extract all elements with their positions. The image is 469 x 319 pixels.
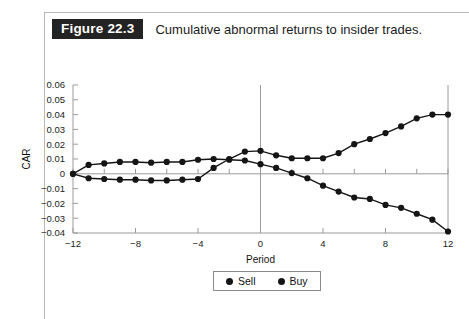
data-point-sell xyxy=(164,159,170,165)
y-tick-label: 0 xyxy=(60,168,65,179)
x-axis-tick-labels: −12−8−404812 xyxy=(65,238,453,249)
data-point-sell xyxy=(429,217,435,223)
y-tick-label: −0.03 xyxy=(41,213,65,224)
data-point-buy xyxy=(211,165,217,171)
data-point-sell xyxy=(117,159,123,165)
page-border-top xyxy=(44,12,469,13)
data-point-sell xyxy=(414,211,420,217)
data-point-buy xyxy=(320,155,326,161)
legend-item-buy[interactable]: Buy xyxy=(278,275,308,287)
x-tick-label: 4 xyxy=(320,238,325,249)
data-point-buy xyxy=(367,136,373,142)
data-point-sell xyxy=(86,162,92,168)
data-point-buy xyxy=(398,123,404,129)
legend-label: Buy xyxy=(290,275,308,287)
data-point-buy xyxy=(117,177,123,183)
x-tick-label: 8 xyxy=(383,238,388,249)
data-point-sell xyxy=(148,160,154,166)
data-point-sell xyxy=(320,183,326,189)
data-point-sell xyxy=(398,205,404,211)
data-point-sell xyxy=(242,157,248,163)
y-tick-label: 0.05 xyxy=(47,94,66,105)
data-point-sell xyxy=(304,175,310,181)
data-point-buy xyxy=(382,130,388,136)
data-point-sell xyxy=(195,157,201,163)
data-point-buy xyxy=(429,112,435,118)
chart-legend: Sell Buy xyxy=(213,271,321,291)
figure-caption-text: Cumulative abnormal returns to insider t… xyxy=(155,22,422,37)
data-point-buy xyxy=(414,115,420,121)
data-point-sell xyxy=(273,165,279,171)
data-point-buy xyxy=(289,155,295,161)
data-point-buy xyxy=(70,171,76,177)
data-point-buy xyxy=(351,141,357,147)
figure-caption-row: Figure 22.3 Cumulative abnormal returns … xyxy=(52,18,422,40)
data-point-sell xyxy=(101,160,107,166)
y-tick-label: 0.06 xyxy=(47,79,66,90)
x-axis-title: Period xyxy=(246,254,275,265)
data-point-buy xyxy=(445,112,451,118)
y-axis-title: CAR xyxy=(21,148,32,169)
data-point-buy xyxy=(132,177,138,183)
y-tick-label: −0.01 xyxy=(41,183,65,194)
legend-marker-icon xyxy=(278,278,285,285)
y-tick-label: −0.02 xyxy=(41,198,65,209)
y-axis-tick-labels: −0.04−0.03−0.02−0.0100.010.020.030.040.0… xyxy=(41,79,65,238)
x-tick-label: −4 xyxy=(193,238,204,249)
data-point-buy xyxy=(86,175,92,181)
data-point-sell xyxy=(351,194,357,200)
data-point-buy xyxy=(336,150,342,156)
y-tick-label: 0.02 xyxy=(47,139,66,150)
x-tick-label: −8 xyxy=(130,238,141,249)
y-tick-label: 0.01 xyxy=(47,153,66,164)
x-tick-label: −12 xyxy=(65,238,81,249)
legend-item-sell[interactable]: Sell xyxy=(226,275,256,287)
data-point-sell xyxy=(257,161,263,167)
data-point-sell xyxy=(367,196,373,202)
data-point-buy xyxy=(242,149,248,155)
data-point-sell xyxy=(179,159,185,165)
data-point-sell xyxy=(336,188,342,194)
data-point-sell xyxy=(211,156,217,162)
data-point-buy xyxy=(179,177,185,183)
data-point-buy xyxy=(164,177,170,183)
data-point-buy xyxy=(101,176,107,182)
legend-label: Sell xyxy=(238,275,256,287)
data-point-sell xyxy=(445,228,451,234)
data-point-sell xyxy=(382,202,388,208)
data-point-buy xyxy=(273,152,279,158)
data-point-buy xyxy=(226,156,232,162)
data-point-sell xyxy=(289,170,295,176)
figure-number-badge: Figure 22.3 xyxy=(52,19,143,40)
y-tick-label: −0.04 xyxy=(41,227,65,238)
x-tick-label: 0 xyxy=(258,238,263,249)
data-point-buy xyxy=(195,176,201,182)
y-tick-label: 0.03 xyxy=(47,124,66,135)
x-tick-label: 12 xyxy=(443,238,454,249)
data-point-sell xyxy=(132,159,138,165)
data-point-buy xyxy=(148,177,154,183)
y-tick-label: 0.04 xyxy=(47,109,66,120)
legend-marker-icon xyxy=(226,278,233,285)
data-point-buy xyxy=(304,155,310,161)
data-point-buy xyxy=(257,148,263,154)
plot-frame xyxy=(73,85,448,233)
